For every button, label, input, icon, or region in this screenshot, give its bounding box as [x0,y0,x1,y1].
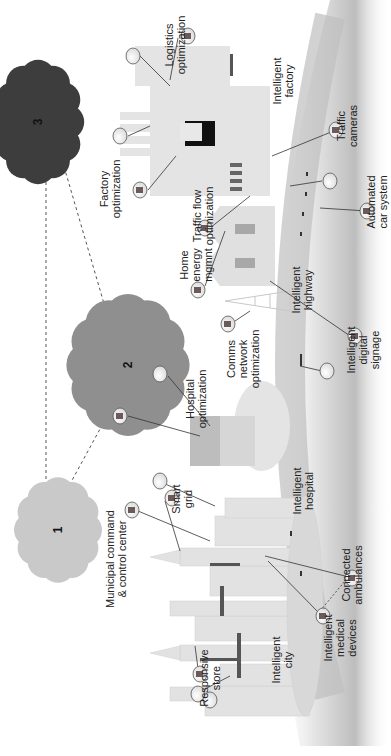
factory-building [120,46,270,196]
label-intelligent-hospital: Intelligenthospital [291,467,315,514]
label-factory-optimization: Factoryoptimization [98,160,122,219]
residential-buildings [205,206,275,286]
device-icon [116,413,123,419]
callout-orb [153,473,167,489]
label-smart-grid: Smartgrid [170,484,194,513]
smart-city-diagram: 1 2 3 Logisticsoptimization Factoryoptim… [0,0,391,756]
cloud-3-number: 3 [31,118,45,125]
label-intelligent-highway: Intelligenthighway [290,266,314,313]
cloud-1-number: 1 [51,526,65,533]
device-icon [128,507,135,513]
label-municipal-command: Municipal command& control center [104,510,128,608]
callout-orb [113,128,127,144]
device-icon [194,287,201,293]
label-intelligent-city: Intelligentcity [270,636,294,683]
callout-orb [320,363,334,379]
device-icon [224,321,231,327]
label-traffic-flow-optimization: Traffic flowoptimization [191,187,215,246]
city-buildings [150,496,323,716]
label-responsive-store: Responsivestore [198,649,222,706]
label-intelligent-medical-devices: Intelligentmedicaldevices [322,614,358,661]
label-connected-ambulances: Connectedambulances [340,545,364,604]
label-hospital-optimization: Hospitaloptimization [184,370,208,429]
label-intelligent-factory: Intelligentfactory [271,57,295,104]
label-logistics-optimization: Logisticsoptimization [163,16,187,75]
callout-orb [153,366,167,382]
cloud-2-number: 2 [121,361,135,368]
callout-orb [126,48,140,64]
device-icon [136,187,143,193]
label-comms-network-optimization: Commsnetworkoptimization [225,330,261,389]
label-home-energy-mgmnt: Homeenergymgmnt [178,248,214,282]
label-automated-car-system: Automatedcar system [365,175,389,228]
label-intelligent-digital-signage: Intelligentdigitalsignage [345,326,381,373]
label-traffic-cameras: Trafficcameras [335,105,359,147]
callout-orb [323,173,337,189]
